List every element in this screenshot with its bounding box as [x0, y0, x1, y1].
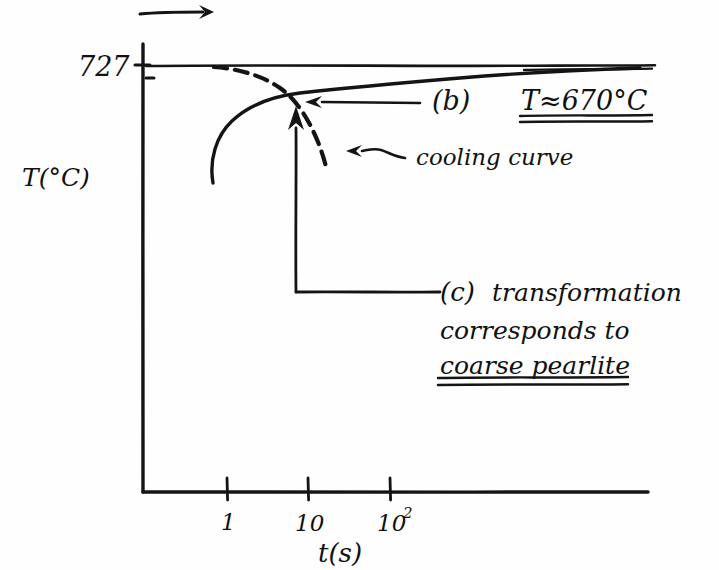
x-tick-label-1: 1	[221, 509, 236, 535]
y-tick-label-727: 727	[78, 51, 130, 82]
cooling-curve-label: cooling curve	[416, 144, 573, 170]
b-underline-2	[520, 121, 652, 122]
annotation-c-line2: corresponds to	[440, 316, 630, 345]
c-leader-arrow	[288, 106, 440, 292]
x-tick-label-10: 10	[295, 510, 324, 536]
x-tick-10	[308, 478, 309, 500]
x-tick-1	[227, 478, 228, 500]
b-underline-top	[524, 69, 652, 70]
cooling-curve-leader-arrow	[346, 145, 405, 158]
x-tick-label-100: 10	[377, 510, 406, 536]
x-tick-label-100-exponent: 2	[402, 504, 413, 522]
annotation-c-line3: coarse pearlite	[440, 351, 630, 380]
annotation-b-tag: (b)	[432, 85, 470, 116]
handdrawn-diagram: 727 T(°C) 1 10 10 2 t(s) (b) T≈670°C coo…	[0, 0, 719, 570]
c-underline-2	[438, 384, 628, 385]
b-leader-arrow	[305, 96, 420, 108]
cooling-curve	[214, 67, 327, 171]
y-axis-label: T(°C)	[22, 163, 90, 192]
direction-arrow-icon	[140, 5, 214, 19]
annotation-c-line1: transformation	[492, 278, 682, 307]
annotation-b-text: T≈670°C	[521, 85, 648, 116]
x-tick-100	[390, 478, 391, 500]
annotation-c-tag: (c)	[440, 277, 475, 307]
x-axis-label: t(s)	[318, 538, 362, 568]
figure-canvas: 727 T(°C) 1 10 10 2 t(s) (b) T≈670°C coo…	[0, 0, 719, 570]
